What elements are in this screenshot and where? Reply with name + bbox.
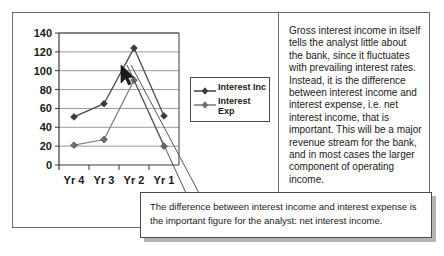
explanation-paragraph: Gross interest income in itself tells th… xyxy=(289,25,422,186)
svg-text:Yr 2: Yr 2 xyxy=(124,174,145,186)
svg-text:100: 100 xyxy=(34,65,52,77)
svg-text:Yr 4: Yr 4 xyxy=(64,174,86,186)
svg-text:60: 60 xyxy=(40,102,52,114)
svg-text:80: 80 xyxy=(40,84,52,96)
legend-swatch-interest-exp xyxy=(194,97,216,109)
svg-text:20: 20 xyxy=(40,140,52,152)
svg-text:0: 0 xyxy=(46,159,52,171)
legend-item-interest-inc: Interest Inc xyxy=(194,82,266,95)
svg-text:40: 40 xyxy=(40,121,52,133)
legend-label-interest-exp: Interest Exp xyxy=(218,96,251,116)
legend-label-interest-inc: Interest Inc xyxy=(218,82,266,92)
callout-text: The difference between interest income a… xyxy=(150,200,422,228)
svg-text:140: 140 xyxy=(34,27,52,39)
svg-text:Yr 1: Yr 1 xyxy=(154,174,175,186)
callout-box: The difference between interest income a… xyxy=(140,192,432,238)
chart-legend: Interest Inc Interest Exp xyxy=(190,77,270,122)
legend-item-interest-exp: Interest Exp xyxy=(194,96,266,116)
svg-text:Yr 3: Yr 3 xyxy=(94,174,115,186)
svg-text:120: 120 xyxy=(34,46,52,58)
legend-swatch-interest-inc xyxy=(194,83,216,95)
x-axis-category-labels: Yr 4Yr 3Yr 2Yr 1 xyxy=(64,174,175,186)
y-axis-tick-labels: 020406080100120140 xyxy=(34,27,52,171)
x-axis-tick-marks xyxy=(89,165,149,170)
